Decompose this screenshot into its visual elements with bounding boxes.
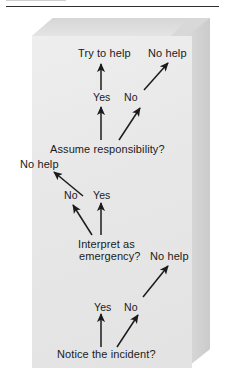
edge-label-bottom-no: No	[124, 302, 138, 313]
edge-label-top-yes: Yes	[93, 92, 110, 103]
node-interpret-line2: emergency?	[79, 251, 141, 262]
box-front-face	[32, 36, 192, 368]
node-interpret-line1: Interpret as	[78, 239, 135, 250]
flowchart-figure-box	[0, 18, 225, 373]
top-hairline-faint	[6, 0, 66, 1]
outcome-no-help-top: No help	[148, 48, 187, 59]
outcome-try-to-help: Try to help	[78, 48, 131, 59]
box-top-face	[32, 18, 192, 36]
outcome-no-help-bottom: No help	[150, 251, 189, 262]
edge-label-middle-yes: Yes	[93, 190, 110, 201]
edge-label-top-no: No	[124, 92, 138, 103]
top-rule-divider	[6, 6, 219, 7]
edge-label-middle-no: No	[64, 190, 78, 201]
node-notice-the-incident: Notice the incident?	[57, 349, 156, 360]
node-assume-responsibility: Assume responsibility?	[50, 144, 165, 155]
outcome-no-help-middle: No help	[20, 159, 59, 170]
edge-label-bottom-yes: Yes	[94, 302, 111, 313]
